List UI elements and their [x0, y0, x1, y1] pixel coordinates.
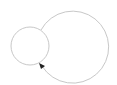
diagram-canvas: [0, 0, 117, 85]
background: [0, 0, 117, 85]
